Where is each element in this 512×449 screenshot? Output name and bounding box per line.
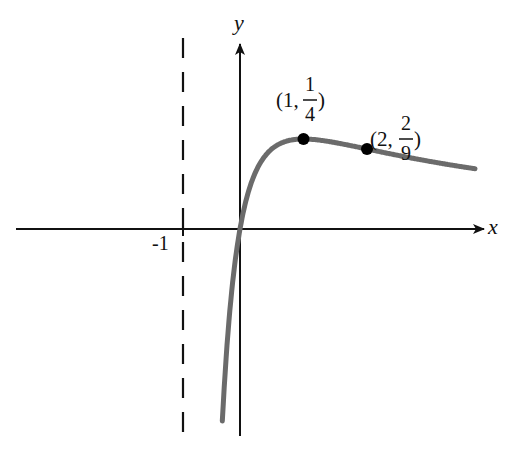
function-graph: y x -1 (1, 1 4 ) (2, 2 9 ) — [0, 0, 512, 449]
svg-text:(1,: (1, — [276, 88, 299, 112]
point-max — [298, 133, 310, 145]
svg-text:9: 9 — [401, 142, 411, 164]
svg-text:(2,: (2, — [370, 127, 393, 151]
y-axis-label: y — [232, 10, 244, 35]
tick-label-minus-one: -1 — [152, 232, 169, 254]
x-axis-label: x — [487, 214, 498, 239]
svg-text:1: 1 — [305, 73, 315, 95]
point-label-1: (1, 1 4 ) — [276, 73, 325, 125]
svg-text:): ) — [318, 88, 325, 112]
svg-text:2: 2 — [401, 112, 411, 134]
svg-text:4: 4 — [305, 103, 315, 125]
svg-text:): ) — [414, 127, 421, 151]
plot-area: y x -1 (1, 1 4 ) (2, 2 9 ) — [0, 0, 512, 449]
curve-right-branch — [222, 139, 475, 421]
